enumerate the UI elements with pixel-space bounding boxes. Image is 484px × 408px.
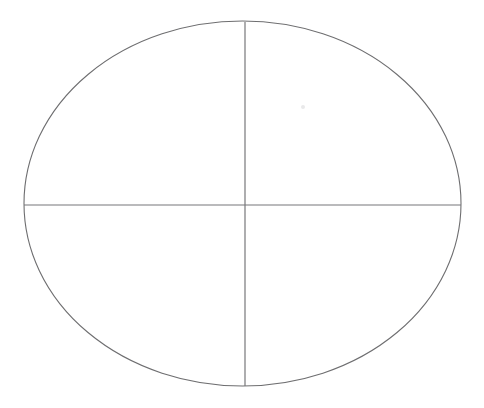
diagram-background: [0, 0, 484, 408]
ellipse-diagram-svg: [0, 0, 484, 408]
scan-speck: [301, 105, 305, 109]
figure-canvas: [0, 0, 484, 408]
